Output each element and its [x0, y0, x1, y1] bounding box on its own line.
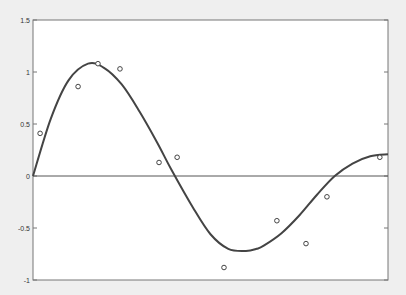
plot-area: [33, 20, 388, 280]
y-tick-label: -0.5: [18, 225, 30, 232]
data-point-marker: [76, 84, 81, 89]
y-tick-label: -1: [24, 277, 30, 284]
data-point-marker: [304, 241, 309, 246]
y-tick-label: 0.5: [20, 121, 30, 128]
y-tick-label: 0: [26, 173, 30, 180]
y-tick-label: 1.5: [20, 17, 30, 24]
chart-figure: -1-0.500.511.5: [0, 0, 406, 295]
data-point-marker: [275, 218, 280, 223]
data-point-marker: [325, 195, 330, 200]
data-point-marker: [118, 67, 123, 72]
y-tick-label: 1: [26, 69, 30, 76]
data-point-marker: [175, 155, 180, 160]
data-point-marker: [222, 265, 227, 270]
data-point-marker: [157, 160, 162, 165]
data-point-marker: [96, 61, 101, 66]
data-point-marker: [38, 131, 43, 136]
data-point-marker: [378, 155, 383, 160]
